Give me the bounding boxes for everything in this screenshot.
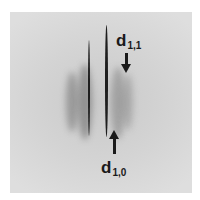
reflection-line-left bbox=[88, 40, 90, 136]
label-d10: d1,0 bbox=[101, 159, 126, 178]
label-d11: d1,1 bbox=[116, 32, 141, 51]
reflection-line-right bbox=[105, 25, 108, 137]
diffuse-reflection-left-outer bbox=[66, 72, 78, 132]
diffuse-reflection-right-outer bbox=[123, 74, 133, 130]
